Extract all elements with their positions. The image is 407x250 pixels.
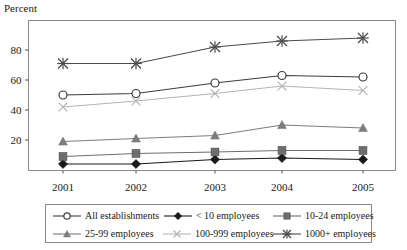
legend-label: 25-99 employees xyxy=(85,228,154,239)
marker-open-circle xyxy=(278,72,286,80)
filled-triangle-icon xyxy=(52,227,82,241)
legend-label: 100-999 employees xyxy=(195,228,274,239)
marker-filled-square xyxy=(278,147,286,155)
legend-label: 1000+ employees xyxy=(305,228,376,239)
x-cross-icon xyxy=(162,227,192,241)
legend-item[interactable]: < 10 employees xyxy=(163,206,272,225)
asterisk-star-icon xyxy=(272,227,302,241)
y-tick-label: 40 xyxy=(11,104,23,116)
series-group xyxy=(57,32,369,168)
legend-label: < 10 employees xyxy=(196,210,259,221)
series-5 xyxy=(57,32,369,69)
x-tick-label: 2004 xyxy=(271,181,294,193)
marker-asterisk-star xyxy=(276,35,288,47)
marker-open-circle xyxy=(211,79,219,87)
marker-filled-square xyxy=(132,150,140,158)
x-tick-label: 2001 xyxy=(52,181,74,193)
axis-ticks xyxy=(25,50,363,174)
marker-asterisk-star xyxy=(57,58,69,70)
legend-item[interactable]: 10-24 employees xyxy=(272,206,371,225)
filled-square-icon xyxy=(272,209,302,223)
legend-label: All establishments xyxy=(85,210,159,221)
x-tick-label: 2005 xyxy=(352,181,375,193)
chart-legend: All establishments< 10 employees10-24 em… xyxy=(45,204,372,243)
marker-filled-diamond xyxy=(131,159,140,168)
marker-filled-diamond xyxy=(277,153,286,162)
marker-asterisk-star xyxy=(130,58,142,70)
legend-label: 10-24 employees xyxy=(305,210,374,221)
open-circle-icon xyxy=(52,209,82,223)
marker-filled-square xyxy=(211,148,219,156)
y-tick-label: 60 xyxy=(11,74,23,86)
filled-diamond-icon xyxy=(163,209,193,223)
marker-filled-diamond xyxy=(358,155,367,164)
marker-open-circle xyxy=(64,212,70,218)
marker-filled-square xyxy=(284,212,290,218)
marker-filled-diamond xyxy=(174,212,181,219)
marker-asterisk-star xyxy=(357,32,369,44)
series-3 xyxy=(59,121,368,146)
line-chart: Percent 2040608020012002200320042005 All… xyxy=(0,0,407,250)
x-tick-label: 2003 xyxy=(204,181,227,193)
marker-filled-diamond xyxy=(210,155,219,164)
marker-asterisk-star xyxy=(282,229,291,238)
marker-open-circle xyxy=(59,91,67,99)
marker-filled-diamond xyxy=(58,159,67,168)
legend-item[interactable]: 25-99 employees xyxy=(46,224,162,243)
y-tick-label: 80 xyxy=(11,44,23,56)
legend-row: 25-99 employees100-999 employees1000+ em… xyxy=(46,224,371,243)
y-tick-label: 20 xyxy=(11,134,23,146)
marker-filled-square xyxy=(359,147,367,155)
marker-open-circle xyxy=(359,73,367,81)
legend-item[interactable]: 1000+ employees xyxy=(272,224,371,243)
marker-open-circle xyxy=(132,90,140,98)
legend-row: All establishments< 10 employees10-24 em… xyxy=(46,206,371,225)
marker-filled-square xyxy=(59,153,67,161)
legend-item[interactable]: All establishments xyxy=(46,206,163,225)
legend-item[interactable]: 100-999 employees xyxy=(162,224,272,243)
x-tick-label: 2002 xyxy=(125,181,147,193)
marker-asterisk-star xyxy=(209,41,221,53)
